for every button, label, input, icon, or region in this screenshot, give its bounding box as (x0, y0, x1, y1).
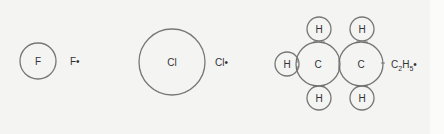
hydrogen-symbol: H (358, 93, 365, 104)
radical-diagram: F F• Cl Cl• C C H H H H H (0, 0, 444, 134)
fluorine-symbol: F (35, 56, 41, 67)
fluorine-radical-label: F• (70, 56, 80, 67)
fluorine-atom: F F• (20, 43, 80, 79)
ethyl-radical: C C H H H H H C2H5• (275, 17, 417, 110)
ethyl-radical-label: C2H5• (391, 59, 417, 72)
hydrogen-symbol: H (283, 59, 290, 70)
hydrogen-symbol: H (315, 93, 322, 104)
hydrogen-symbol: H (358, 24, 365, 35)
electron-pairs (297, 42, 385, 86)
chlorine-radical-label: Cl• (215, 57, 228, 68)
chlorine-symbol: Cl (167, 57, 176, 68)
carbon-symbol: C (357, 59, 364, 70)
hydrogen-symbol: H (315, 24, 322, 35)
carbon-symbol: C (314, 59, 321, 70)
chlorine-atom: Cl Cl• (139, 29, 228, 95)
